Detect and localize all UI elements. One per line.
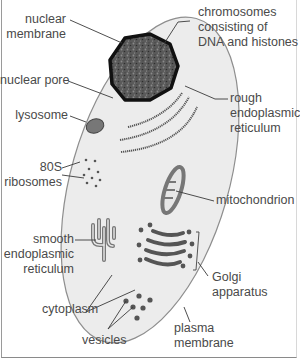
label-line: smooth bbox=[2, 232, 74, 247]
cell-diagram: nuclear membrane chromosomes consisting … bbox=[0, 0, 300, 362]
label-line: membrane bbox=[4, 27, 66, 42]
label-line: reticulum bbox=[230, 121, 300, 136]
label-line: ribosomes bbox=[2, 175, 62, 190]
label-line: membrane bbox=[174, 336, 234, 351]
label-golgi: Golgi apparatus bbox=[212, 270, 268, 300]
label-line: chromosomes bbox=[198, 5, 298, 20]
label-line: Golgi bbox=[212, 270, 268, 285]
label-nuclear-pore: nuclear pore bbox=[0, 73, 68, 88]
label-line: mitochondrion bbox=[216, 193, 295, 208]
label-smooth-er: smooth endoplasmic reticulum bbox=[2, 232, 74, 277]
label-line: apparatus bbox=[212, 285, 268, 300]
label-rough-er: rough endoplasmic reticulum bbox=[230, 91, 300, 136]
label-mitochondrion: mitochondrion bbox=[216, 193, 295, 208]
label-line: cytoplasm bbox=[42, 302, 98, 317]
label-line: lysosome bbox=[4, 108, 68, 123]
label-line: reticulum bbox=[2, 262, 74, 277]
label-line: nuclear pore bbox=[0, 73, 68, 88]
nucleus bbox=[110, 34, 178, 100]
label-cytoplasm: cytoplasm bbox=[42, 302, 98, 317]
label-plasma-membrane: plasma membrane bbox=[174, 321, 234, 351]
label-ribosomes: 80S ribosomes bbox=[2, 160, 62, 190]
label-vesicles: vesicles bbox=[82, 333, 126, 348]
label-line: DNA and histones bbox=[198, 35, 298, 50]
label-line: endoplasmic bbox=[2, 247, 74, 262]
label-line: endoplasmic bbox=[230, 106, 300, 121]
label-line: 80S bbox=[2, 160, 62, 175]
label-line: nuclear bbox=[4, 12, 66, 27]
label-lysosome: lysosome bbox=[4, 108, 68, 123]
label-line: consisting of bbox=[198, 20, 298, 35]
label-line: vesicles bbox=[82, 333, 126, 348]
label-nuclear-membrane: nuclear membrane bbox=[4, 12, 66, 42]
label-chromosomes: chromosomes consisting of DNA and histon… bbox=[198, 5, 298, 50]
label-line: plasma bbox=[174, 321, 234, 336]
label-line: rough bbox=[230, 91, 300, 106]
